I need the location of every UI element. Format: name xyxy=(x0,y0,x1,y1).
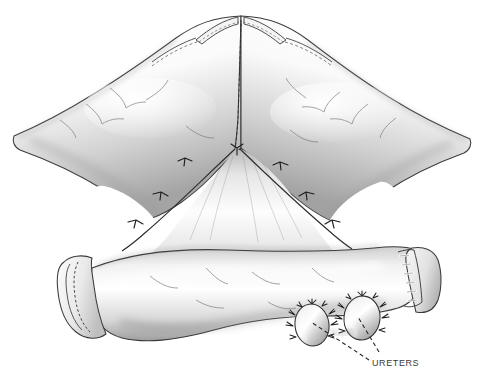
illustration-canvas xyxy=(0,0,482,387)
surgical-illustration-figure: URETERS xyxy=(0,0,482,387)
left-limb-highlight xyxy=(84,78,216,138)
label-ureters: URETERS xyxy=(372,358,419,368)
